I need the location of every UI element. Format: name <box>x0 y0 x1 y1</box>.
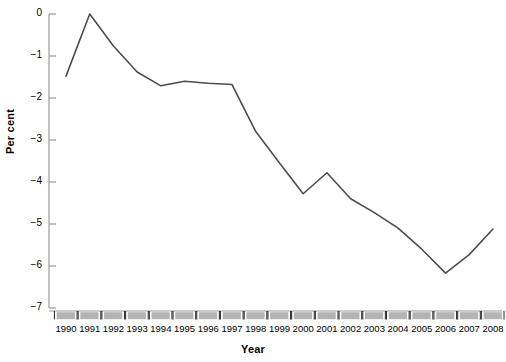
x-tick-label: 2008 <box>473 323 506 334</box>
x-tick-block <box>270 312 288 319</box>
x-tick-block <box>389 312 407 319</box>
x-tick-block <box>199 312 217 319</box>
x-tick-block <box>318 312 336 319</box>
x-tick-block <box>57 312 75 319</box>
x-tick-block <box>104 312 122 319</box>
y-tick-label: −1 <box>10 49 42 60</box>
x-tick-block <box>223 312 241 319</box>
line-plot-canvas <box>0 0 506 362</box>
x-tick-block <box>294 312 312 319</box>
x-tick-block <box>175 312 193 319</box>
x-tick-block <box>128 312 146 319</box>
x-tick-block <box>365 312 383 319</box>
x-tick-block <box>152 312 170 319</box>
x-tick-block <box>80 312 98 319</box>
x-tick-block <box>246 312 264 319</box>
data-series-line <box>66 14 493 273</box>
y-tick-label: −4 <box>10 175 42 186</box>
y-tick-label: −3 <box>10 133 42 144</box>
y-tick-label: −6 <box>10 259 42 270</box>
x-tick-block <box>436 312 454 319</box>
y-tick-label: −5 <box>10 217 42 228</box>
x-tick-block <box>341 312 359 319</box>
x-tick-block <box>484 312 502 319</box>
y-tick-label: −2 <box>10 91 42 102</box>
x-tick-block <box>412 312 430 319</box>
chart-figure: Per cent Year 0−1−2−3−4−5−6−7 1990199119… <box>0 0 506 362</box>
x-tick-block <box>460 312 478 319</box>
y-tick-label: −7 <box>10 301 42 312</box>
y-tick-label: 0 <box>10 7 42 18</box>
